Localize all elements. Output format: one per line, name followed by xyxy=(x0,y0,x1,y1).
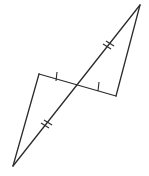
left-triangle-side xyxy=(13,74,39,166)
right-triangle-side xyxy=(116,5,140,96)
long-diagonal-segment xyxy=(13,5,140,166)
short-crossing-segment xyxy=(39,74,116,96)
geometry-diagram xyxy=(0,0,149,176)
single-tick-mark-right xyxy=(98,82,99,91)
